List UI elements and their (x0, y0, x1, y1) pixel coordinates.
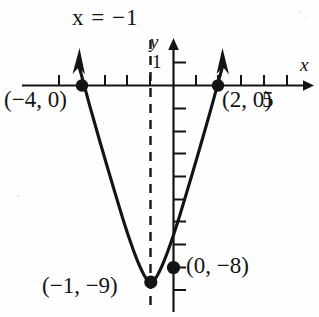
y-axis-tick-label-1: 1 (152, 52, 162, 71)
parabola-figure: x = −1 y 1 x (−4, 0) (2, 0) 5 (−1, −9) (… (0, 0, 319, 317)
point-root-left (76, 79, 88, 91)
point-label-vertex: (−1, −9) (42, 274, 118, 297)
y-axis-arrowhead (168, 38, 179, 50)
point-label-y-intercept: (0, −8) (186, 254, 249, 277)
x-axis-tick-label-5: 5 (262, 88, 274, 111)
graph-canvas (0, 0, 319, 317)
y-axis-label: y (150, 32, 158, 51)
point-label-root-left: (−4, 0) (4, 88, 67, 111)
point-y-intercept (167, 261, 180, 274)
point-vertex (144, 275, 157, 288)
x-axis-label: x (300, 55, 308, 74)
y-axis-ticks (173, 63, 186, 291)
x-axis-arrowhead (303, 80, 314, 91)
axis-of-symmetry-label: x = −1 (72, 6, 138, 29)
